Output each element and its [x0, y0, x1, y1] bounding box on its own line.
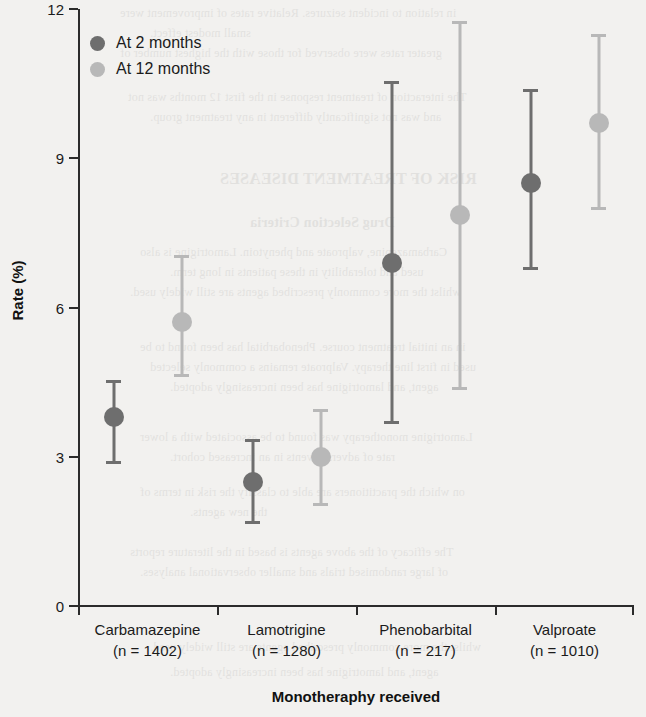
data-point-marker[interactable]	[311, 447, 331, 467]
error-bar-cap-top	[591, 34, 606, 37]
y-tick-mark	[69, 307, 78, 309]
y-axis-line	[78, 9, 80, 607]
y-tick-mark	[69, 605, 78, 607]
plot-area: 036912 Rate (%) Monotheraphy received Ca…	[0, 0, 646, 717]
error-bar-cap-bottom	[384, 421, 399, 424]
error-bar-cap-top	[523, 89, 538, 92]
legend-item[interactable]: At 12 months	[90, 56, 210, 82]
category-sample-size: (n = 1402)	[73, 640, 223, 661]
category-sample-size: (n = 1010)	[490, 640, 640, 661]
error-bar-cap-bottom	[106, 461, 121, 464]
y-tick-label: 0	[28, 598, 64, 615]
y-tick-mark	[69, 157, 78, 159]
legend-label: At 2 months	[116, 34, 201, 52]
category-name: Phenobarbital	[379, 621, 472, 638]
error-bar-cap-top	[313, 409, 328, 412]
error-bar-cap-top	[245, 439, 260, 442]
error-bar-cap-bottom	[245, 521, 260, 524]
x-tick-mark	[217, 605, 219, 615]
x-tick-mark	[495, 605, 497, 615]
x-category-label: Phenobarbital(n = 217)	[351, 619, 501, 661]
legend-swatch-icon	[90, 36, 105, 51]
error-bar-cap-top	[384, 81, 399, 84]
legend-label: At 12 months	[116, 60, 210, 78]
legend-swatch-icon	[90, 62, 105, 77]
category-name: Lamotrigine	[247, 621, 325, 638]
error-bar-cap-top	[106, 380, 121, 383]
data-point-marker[interactable]	[521, 173, 541, 193]
error-bar-cap-bottom	[452, 387, 467, 390]
error-bar-cap-bottom	[523, 267, 538, 270]
category-sample-size: (n = 1280)	[212, 640, 362, 661]
data-point-marker[interactable]	[450, 205, 470, 225]
data-point-marker[interactable]	[589, 113, 609, 133]
data-point-marker[interactable]	[243, 472, 263, 492]
y-tick-mark	[69, 456, 78, 458]
y-tick-mark	[69, 8, 78, 10]
error-bar-cap-top	[452, 21, 467, 24]
x-axis-title: Monotheraphy received	[78, 688, 634, 705]
category-sample-size: (n = 217)	[351, 640, 501, 661]
legend-item[interactable]: At 2 months	[90, 30, 210, 56]
data-point-marker[interactable]	[382, 253, 402, 273]
data-point-marker[interactable]	[104, 407, 124, 427]
x-category-label: Carbamazepine(n = 1402)	[73, 619, 223, 661]
y-tick-label: 12	[28, 1, 64, 18]
category-name: Valproate	[533, 621, 596, 638]
legend: At 2 monthsAt 12 months	[90, 30, 210, 82]
x-category-label: Valproate(n = 1010)	[490, 619, 640, 661]
x-tick-mark	[632, 605, 634, 615]
category-name: Carbamazepine	[95, 621, 201, 638]
error-bar-cap-bottom	[174, 374, 189, 377]
data-point-marker[interactable]	[172, 312, 192, 332]
y-tick-label: 3	[28, 448, 64, 465]
y-tick-label: 9	[28, 150, 64, 167]
x-tick-mark	[356, 605, 358, 615]
x-category-label: Lamotrigine(n = 1280)	[212, 619, 362, 661]
y-tick-label: 6	[28, 299, 64, 316]
error-bar-cap-bottom	[591, 207, 606, 210]
y-axis-title: Rate (%)	[9, 231, 26, 351]
error-bar-cap-top	[174, 255, 189, 258]
chart-page: in relation to incident seizures. Relati…	[0, 0, 646, 717]
error-bar-cap-bottom	[313, 503, 328, 506]
x-tick-mark	[78, 605, 80, 615]
